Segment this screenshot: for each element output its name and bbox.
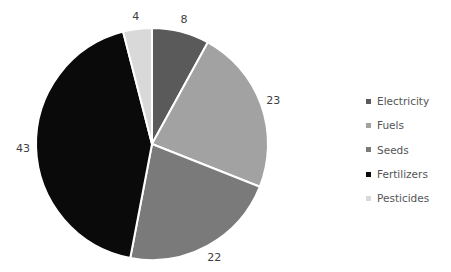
legend-item-fertilizers: Fertilizers [366, 162, 429, 186]
legend-item-electricity: Electricity [366, 89, 429, 113]
legend-item-fuels: Fuels [366, 113, 429, 137]
legend-label-seeds: Seeds [377, 143, 409, 157]
legend-swatch-fertilizers [366, 172, 371, 177]
legend-swatch-seeds [366, 147, 371, 152]
data-label-fertilizers: 43 [16, 142, 30, 155]
legend-label-electricity: Electricity [377, 94, 429, 108]
data-label-fuels: 23 [266, 94, 280, 107]
chart-legend: Electricity Fuels Seeds Fertilizers Pest… [366, 89, 429, 210]
legend-label-fuels: Fuels [377, 118, 404, 132]
legend-item-seeds: Seeds [366, 138, 429, 162]
legend-swatch-fuels [366, 123, 371, 128]
data-label-seeds: 22 [207, 251, 221, 264]
data-label-pesticides: 4 [132, 10, 139, 23]
legend-swatch-pesticides [366, 196, 371, 201]
data-label-electricity: 8 [181, 13, 188, 26]
legend-item-pesticides: Pesticides [366, 186, 429, 210]
legend-label-pesticides: Pesticides [377, 191, 429, 205]
legend-swatch-electricity [366, 99, 371, 104]
pie-slices [36, 28, 268, 260]
legend-label-fertilizers: Fertilizers [377, 167, 428, 181]
